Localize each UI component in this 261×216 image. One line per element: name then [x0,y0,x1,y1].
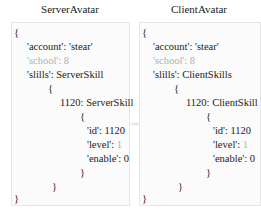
open-brace: { [142,27,147,39]
enable-line: 'enable': 0 [87,153,129,165]
skill-entry: 1120: ClientSkill [186,97,258,109]
client-avatar-panel: { 'account': 'stear' 'school': 8 'slills… [139,22,261,206]
skill-entry: 1120: ServerSkill [60,97,133,109]
level-key: 'level': [87,139,117,150]
entry-open-brace: { [206,111,211,123]
account-line: 'account': 'stear' [153,41,219,53]
enable-line: 'enable': 0 [213,153,255,165]
skills-open-brace: { [48,83,53,95]
account-value: 'stear' [69,41,93,52]
server-avatar-title: ServerAvatar [11,3,129,15]
level-line: 'level': 1 [87,139,122,151]
school-line: 'school': 8 [27,55,69,67]
entry-close-brace: } [80,167,85,179]
account-line: 'account': 'stear' [27,41,93,53]
id-line: 'id': 1120 [213,125,251,137]
id-line: 'id': 1120 [87,125,125,137]
level-key: 'level': [213,139,243,150]
level-value: 1 [243,139,248,150]
entry-open-brace: { [80,111,85,123]
level-value: 1 [117,139,122,150]
skills-close-brace: } [52,181,57,193]
open-brace: { [14,27,19,39]
client-avatar-title: ClientAvatar [139,3,259,15]
account-key: 'account': [153,41,195,52]
skills-line: 'slills': ClientSkills [153,69,232,81]
account-key: 'account': [27,41,69,52]
skills-close-brace: } [178,181,183,193]
school-line: 'school': 8 [153,55,195,67]
skills-open-brace: { [174,83,179,95]
close-brace: } [142,193,147,205]
entry-close-brace: } [206,167,211,179]
level-line: 'level': 1 [213,139,248,151]
account-value: 'stear' [195,41,219,52]
close-brace: } [14,193,19,205]
server-avatar-panel: { 'account': 'stear' 'school': 8 'slills… [11,22,130,206]
skills-line: 'slills': ServerSkill [27,69,103,81]
